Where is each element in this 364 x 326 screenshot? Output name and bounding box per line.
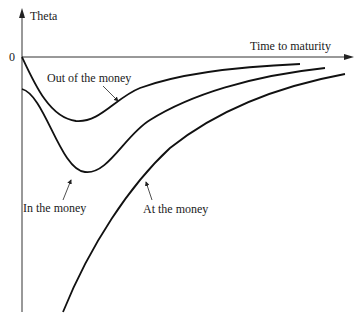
x-axis-label: Time to maturity [250, 39, 331, 53]
label-in-the-money: In the money [23, 201, 86, 215]
pointer-arrow-icon [146, 182, 152, 200]
label-out-of-the-money: Out of the money [47, 71, 131, 85]
pointer-arrow-icon [103, 86, 118, 101]
zero-tick-label: 0 [9, 50, 15, 64]
y-axis-label: Theta [30, 9, 58, 23]
label-at-the-money: At the money [143, 202, 208, 216]
y-axis-arrow-icon [19, 8, 25, 18]
curve-out-of-the-money [22, 57, 300, 121]
theta-chart: Theta 0 Time to maturity Out of the mone… [0, 0, 364, 326]
pointer-arrow-icon [63, 180, 71, 200]
x-axis-arrow-icon [344, 54, 354, 60]
